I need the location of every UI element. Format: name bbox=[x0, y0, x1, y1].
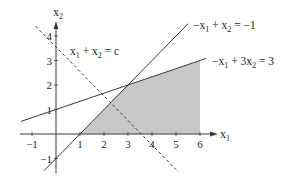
lp-diagram: −1123456−11234 x1 x2 −x1 + x2 = −1 −x1 +… bbox=[0, 0, 282, 183]
y-tick-label: 4 bbox=[47, 30, 53, 42]
x1-axis-arrow-icon bbox=[210, 132, 218, 137]
y-tick-label: 3 bbox=[47, 55, 53, 67]
x-tick-label: 3 bbox=[125, 138, 131, 150]
x-tick-label: 5 bbox=[173, 138, 179, 150]
x-tick-label: −1 bbox=[26, 138, 38, 150]
y-tick-label: 1 bbox=[47, 104, 53, 116]
y-tick-label: 2 bbox=[47, 79, 53, 91]
constraint-1-label: −x1 + x2 = −1 bbox=[193, 19, 256, 34]
objective-label: x1 + x2 = c bbox=[70, 45, 119, 60]
y-tick-label: −1 bbox=[40, 153, 52, 165]
x2-axis-arrow-icon bbox=[54, 21, 59, 29]
constraint-2-label: −x1 + 3x2 = 3 bbox=[212, 55, 274, 70]
x1-axis-label: x1 bbox=[220, 127, 230, 143]
x-tick-label: 6 bbox=[197, 138, 203, 150]
x2-axis-label: x2 bbox=[53, 5, 63, 21]
x-tick-label: 2 bbox=[101, 138, 107, 150]
x-tick-label: 1 bbox=[77, 138, 83, 150]
x-tick-label: 4 bbox=[149, 138, 155, 150]
feasible-region bbox=[80, 61, 200, 135]
